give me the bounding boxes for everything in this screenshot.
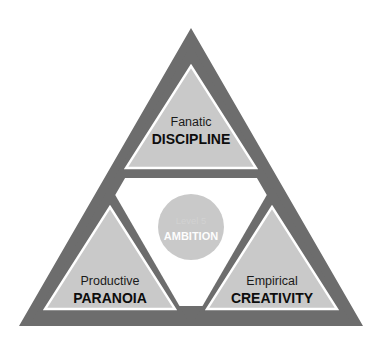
panel-discipline-label-line1: Fanatic bbox=[171, 115, 212, 129]
ambition-circle-shape bbox=[158, 194, 224, 260]
ambition-label-line1: Level 5 bbox=[176, 215, 207, 226]
panel-creativity-label-line1: Empirical bbox=[246, 274, 297, 288]
center-ambition-circle[interactable]: Level 5 AMBITION bbox=[158, 194, 224, 260]
panel-creativity-label-line2: CREATIVITY bbox=[231, 290, 314, 306]
panel-discipline-label-line2: DISCIPLINE bbox=[152, 131, 231, 147]
panel-paranoia-label-line2: PARANOIA bbox=[73, 290, 147, 306]
panel-paranoia-label-line1: Productive bbox=[80, 274, 139, 288]
diagram-canvas: Fanatic DISCIPLINE Productive PARANOIA E… bbox=[0, 0, 382, 343]
triangle-framework-diagram: Fanatic DISCIPLINE Productive PARANOIA E… bbox=[0, 0, 382, 343]
ambition-label-line2: AMBITION bbox=[164, 230, 218, 242]
